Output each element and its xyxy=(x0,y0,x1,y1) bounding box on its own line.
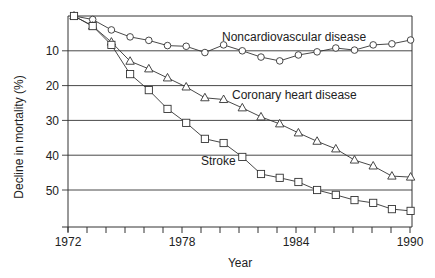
square-marker xyxy=(220,139,227,146)
circle-marker xyxy=(146,37,153,44)
square-marker xyxy=(388,206,395,213)
square-marker xyxy=(332,191,339,198)
circle-marker xyxy=(407,37,414,44)
square-marker xyxy=(108,41,115,48)
triangle-marker xyxy=(313,137,321,145)
y-axis-label: Decline in mortality (%) xyxy=(12,75,26,198)
chart-canvas: 10203040501972197819841990 Decline in mo… xyxy=(0,0,435,278)
triangle-marker xyxy=(350,156,358,164)
square-marker xyxy=(70,12,77,19)
triangle-marker xyxy=(201,93,209,101)
triangle-marker xyxy=(219,95,227,103)
square-marker xyxy=(239,153,246,160)
square-marker xyxy=(295,178,302,185)
series-label-noncardiovascular: Noncardiovascular disease xyxy=(222,30,366,44)
triangle-marker xyxy=(294,128,302,136)
square-marker xyxy=(407,207,414,214)
circle-marker xyxy=(258,54,265,61)
square-marker xyxy=(314,186,321,193)
x-tick-label: 1984 xyxy=(283,235,310,249)
triangle-marker xyxy=(163,73,171,81)
x-tick-label: 1978 xyxy=(169,235,196,249)
axis-labels: Decline in mortality (%) Year Noncardiov… xyxy=(12,30,366,270)
y-tick-label: 30 xyxy=(46,114,60,128)
triangle-marker xyxy=(182,82,190,90)
circle-marker xyxy=(164,42,171,49)
series-label-coronary: Coronary heart disease xyxy=(232,88,357,102)
circle-marker xyxy=(127,34,134,41)
circle-marker xyxy=(314,49,321,56)
triangle-marker xyxy=(257,112,265,120)
circle-marker xyxy=(202,49,209,56)
circle-marker xyxy=(351,47,358,54)
square-marker xyxy=(351,196,358,203)
circle-marker xyxy=(276,58,283,65)
x-tick-label: 1972 xyxy=(55,235,82,249)
y-tick-label: 50 xyxy=(46,184,60,198)
square-marker xyxy=(164,105,171,112)
mortality-decline-chart: 10203040501972197819841990 Decline in mo… xyxy=(0,0,435,278)
square-marker xyxy=(183,119,190,126)
square-marker xyxy=(89,22,96,29)
circle-marker xyxy=(389,41,396,48)
circle-marker xyxy=(239,48,246,55)
series-label-stroke: Stroke xyxy=(201,154,236,168)
triangle-marker xyxy=(406,173,414,181)
y-tick-label: 20 xyxy=(46,79,60,93)
circle-marker xyxy=(333,45,340,52)
square-marker xyxy=(127,71,134,78)
square-marker xyxy=(145,87,152,94)
circle-marker xyxy=(108,27,115,34)
circle-marker xyxy=(370,42,377,49)
x-tick-label: 1990 xyxy=(397,235,424,249)
square-marker xyxy=(370,199,377,206)
square-marker xyxy=(276,174,283,181)
y-tick-label: 10 xyxy=(46,44,60,58)
circle-marker xyxy=(295,52,302,59)
y-tick-label: 40 xyxy=(46,149,60,163)
x-axis-label: Year xyxy=(228,256,252,270)
triangle-marker xyxy=(388,172,396,180)
square-marker xyxy=(201,135,208,142)
circle-marker xyxy=(183,43,190,50)
triangle-marker xyxy=(238,103,246,111)
square-marker xyxy=(257,170,264,177)
